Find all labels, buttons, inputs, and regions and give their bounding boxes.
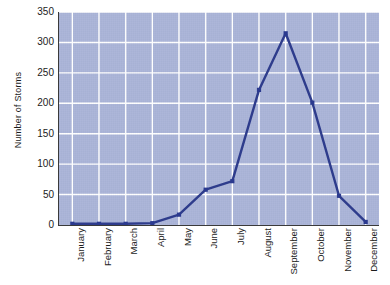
y-axis-tick-label: 250 bbox=[20, 68, 54, 78]
x-axis-tick-label: October bbox=[316, 228, 326, 285]
x-axis-tick-labels: JanuaryFebruaryMarchAprilMayJuneJulyAugu… bbox=[58, 228, 380, 285]
data-point-marker bbox=[97, 222, 101, 225]
x-axis-tick-label: April bbox=[156, 228, 166, 285]
y-axis-tick-label: 200 bbox=[20, 98, 54, 108]
y-axis-tick-labels: 050100150200250300350 bbox=[20, 0, 54, 285]
x-axis-tick-label: December bbox=[369, 228, 379, 285]
data-point-marker bbox=[364, 220, 368, 224]
x-axis-tick-label: January bbox=[76, 228, 86, 285]
y-axis-tick-label: 50 bbox=[20, 190, 54, 200]
y-axis-tick-label: 150 bbox=[20, 129, 54, 139]
data-point-marker bbox=[124, 222, 128, 225]
data-series-line bbox=[59, 12, 379, 225]
x-axis-tick-label: March bbox=[129, 228, 139, 285]
data-point-marker bbox=[257, 88, 261, 92]
x-axis-tick-label: September bbox=[289, 228, 299, 285]
data-point-marker bbox=[177, 213, 181, 217]
y-axis-tick-label: 300 bbox=[20, 37, 54, 47]
x-axis-tick-label: August bbox=[263, 228, 273, 285]
data-point-marker bbox=[70, 222, 74, 225]
data-point-marker bbox=[150, 221, 154, 225]
data-point-marker bbox=[204, 188, 208, 192]
data-point-marker bbox=[310, 101, 314, 105]
plot-area bbox=[58, 12, 379, 226]
data-point-marker bbox=[337, 194, 341, 198]
data-point-marker bbox=[284, 31, 288, 35]
x-axis-tick-label: February bbox=[103, 228, 113, 285]
x-axis-tick-label: November bbox=[343, 228, 353, 285]
y-axis-tick-label: 350 bbox=[20, 7, 54, 17]
x-axis-tick-label: July bbox=[236, 228, 246, 285]
data-point-marker bbox=[230, 179, 234, 183]
x-axis-tick-label: June bbox=[209, 228, 219, 285]
y-axis-tick-label: 0 bbox=[20, 220, 54, 230]
storms-line-chart: Number of Storms 050100150200250300350 J… bbox=[0, 0, 390, 285]
y-axis-tick-label: 100 bbox=[20, 159, 54, 169]
x-axis-tick-label: May bbox=[183, 228, 193, 285]
